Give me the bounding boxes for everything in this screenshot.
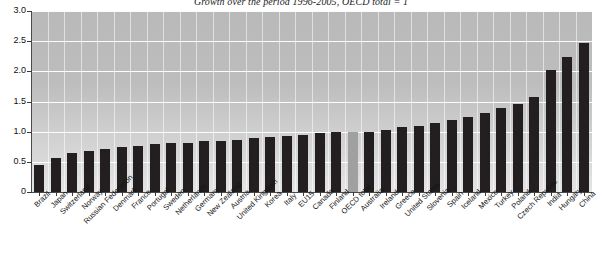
y-axis-tick-label: 1.0 — [13, 127, 26, 136]
y-axis-tick — [27, 41, 32, 42]
y-axis-tick — [27, 102, 32, 103]
bar — [562, 57, 572, 192]
bar — [34, 165, 44, 192]
x-axis-tick — [485, 192, 486, 196]
x-axis-tick — [56, 192, 57, 196]
bar-series — [31, 11, 592, 192]
x-axis-tick — [237, 192, 238, 196]
x-axis-tick — [155, 192, 156, 196]
x-axis-tick — [435, 192, 436, 196]
y-axis-tick-label: 3.0 — [13, 6, 26, 15]
y-axis-tick-label: 1.5 — [13, 97, 26, 106]
x-axis-tick — [188, 192, 189, 196]
x-axis-tick — [518, 192, 519, 196]
x-axis-tick — [221, 192, 222, 196]
x-axis-tick — [567, 192, 568, 196]
bar — [397, 127, 407, 192]
x-axis-tick — [386, 192, 387, 196]
x-axis-tick — [204, 192, 205, 196]
x-axis-tick — [369, 192, 370, 196]
x-axis-tick — [287, 192, 288, 196]
chart-title: Growth over the period 1996-2005, OECD t… — [0, 0, 602, 7]
x-axis-tick — [39, 192, 40, 196]
x-axis-tick — [72, 192, 73, 196]
bar — [216, 141, 226, 192]
y-axis-tick-label: 2.0 — [13, 66, 26, 75]
bar — [298, 135, 308, 192]
bar — [331, 132, 341, 192]
x-axis-tick — [105, 192, 106, 196]
x-axis-tick — [270, 192, 271, 196]
x-axis-labels: BrazilJapanSwitzerlandNorwayRussian Fede… — [31, 196, 602, 274]
x-axis-tick — [171, 192, 172, 196]
x-axis-tick — [402, 192, 403, 196]
bar — [183, 143, 193, 192]
y-axis-tick-label: 0.5 — [13, 157, 26, 166]
x-axis-tick — [89, 192, 90, 196]
bar — [546, 70, 556, 192]
x-axis-tick — [353, 192, 354, 196]
y-axis-tick-label: 2.5 — [13, 36, 26, 45]
x-axis-tick — [320, 192, 321, 196]
x-axis-tick — [452, 192, 453, 196]
plot-area — [31, 11, 592, 192]
bar — [51, 158, 61, 192]
x-axis-tick — [468, 192, 469, 196]
x-axis-tick-label: Italy — [282, 191, 298, 207]
bar — [579, 43, 589, 192]
bar — [67, 153, 77, 192]
x-axis-tick — [122, 192, 123, 196]
bar — [100, 149, 110, 192]
chart-container: Growth over the period 1996-2005, OECD t… — [0, 0, 602, 274]
y-axis-tick — [27, 11, 32, 12]
bar — [133, 146, 143, 192]
bar — [282, 136, 292, 192]
y-axis-labels: 00.51.01.52.02.53.0 — [0, 0, 26, 274]
bar — [463, 117, 473, 192]
bar — [249, 138, 259, 192]
bar — [315, 133, 325, 192]
x-axis-tick — [501, 192, 502, 196]
bar — [150, 144, 160, 192]
x-axis-tick — [551, 192, 552, 196]
x-axis-tick — [138, 192, 139, 196]
x-axis-tick — [419, 192, 420, 196]
bar — [414, 126, 424, 192]
x-axis-tick — [584, 192, 585, 196]
bar — [480, 113, 490, 192]
bar — [447, 120, 457, 192]
bar — [513, 104, 523, 192]
bar — [166, 143, 176, 192]
y-axis-tick — [27, 192, 32, 193]
bar — [496, 108, 506, 192]
x-axis-tick — [254, 192, 255, 196]
x-axis-tick — [336, 192, 337, 196]
bar — [348, 132, 358, 192]
y-axis-tick-label: 0 — [21, 187, 26, 196]
y-axis-tick — [27, 162, 32, 163]
y-axis-tick — [27, 132, 32, 133]
y-axis-tick — [27, 71, 32, 72]
bar — [381, 130, 391, 192]
x-axis-tick — [534, 192, 535, 196]
x-axis-tick — [303, 192, 304, 196]
bar — [529, 97, 539, 192]
